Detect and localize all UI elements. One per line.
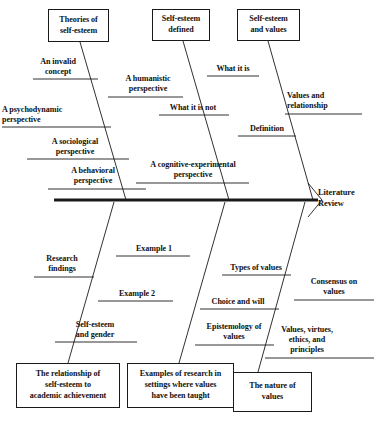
spine-group: [54, 183, 322, 217]
cause-label-the-nature-of-values-1: Consensus on values: [296, 277, 372, 297]
effect-label: Literature Review: [318, 188, 355, 210]
category-box-self-esteem-defined[interactable]: Self-esteem defined: [152, 9, 210, 41]
cause-label-examples-of-research-values-1: Example 2: [106, 289, 168, 299]
cause-label-the-nature-of-values-2: Choice and will: [201, 297, 275, 307]
cause-label-self-esteem-defined-2: Definition: [239, 124, 295, 134]
category-box-self-esteem-and-values[interactable]: Self-esteem and values: [237, 9, 300, 41]
fishbone-diagram: Theories of self-esteemSelf-esteem defin…: [0, 0, 374, 437]
category-box-the-nature-of-values[interactable]: The nature of values: [233, 372, 312, 412]
cause-label-the-nature-of-values-3: Epistemology of values: [194, 322, 274, 342]
category-bone-self-esteem-and-values: [268, 41, 313, 200]
cause-label-theories-of-self-esteem-1: A humanistic perspective: [110, 74, 186, 94]
cause-label-self-esteem-defined-0: What it is: [204, 64, 262, 74]
cause-label-self-esteem-defined-1: What it is not: [157, 103, 229, 113]
cause-label-examples-of-research-values-0: Example 1: [123, 244, 185, 254]
cause-label-relationship-self-esteem-academic-1: Self-esteem and gender: [59, 320, 131, 340]
cause-label-the-nature-of-values-4: Values, virtues, ethics, and principles: [266, 325, 348, 356]
category-box-theories-of-self-esteem[interactable]: Theories of self-esteem: [48, 9, 109, 42]
cause-label-theories-of-self-esteem-4: A behavioral perspective: [46, 166, 140, 186]
cause-label-self-esteem-and-values-0: Values and relationship: [287, 91, 359, 111]
cause-label-theories-of-self-esteem-3: A sociological perspective: [28, 137, 122, 157]
cause-label-the-nature-of-values-0: Types of values: [220, 263, 292, 273]
category-box-examples-of-research-values[interactable]: Examples of research in settings where v…: [127, 363, 234, 408]
cause-label-theories-of-self-esteem-0: An invalid concept: [21, 57, 95, 77]
category-box-relationship-self-esteem-academic[interactable]: The relationship of self-esteem to acade…: [16, 363, 120, 408]
cause-label-relationship-self-esteem-academic-0: Research findings: [31, 254, 93, 274]
cause-label-theories-of-self-esteem-5: A cognitive-experimental perspective: [134, 160, 252, 180]
cause-label-theories-of-self-esteem-2: A psychodynamic perspective: [2, 105, 105, 125]
